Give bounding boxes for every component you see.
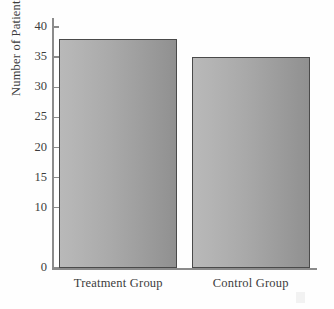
y-tick-label: 0	[21, 261, 47, 274]
category-label-control-group: Control Group	[185, 276, 318, 291]
scan-artifact	[296, 292, 305, 303]
y-tick-label: 40	[21, 20, 47, 33]
bars-container	[52, 18, 317, 268]
y-tick-label: 15	[21, 171, 47, 184]
x-axis-line	[52, 268, 317, 270]
y-tick-label: 10	[21, 201, 47, 214]
y-tick-label: 25	[21, 110, 47, 123]
y-tick-label: 20	[21, 141, 47, 154]
y-tick-label: 35	[21, 50, 47, 63]
category-label-treatment-group: Treatment Group	[52, 276, 185, 291]
bar-chart-figure: Number of Patients 010152025303540 Treat…	[0, 0, 334, 309]
bar-treatment-group	[59, 39, 177, 268]
y-tick-label: 30	[21, 80, 47, 93]
bar-control-group	[192, 57, 310, 268]
